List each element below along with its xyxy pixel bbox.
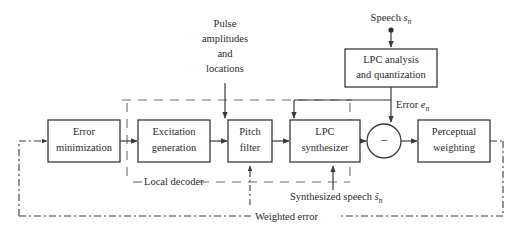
speech-to-lpc-analysis — [388, 27, 393, 47]
block-excitation-generation[interactable]: Excitation generation — [138, 120, 210, 162]
annotation-local-decoder-text: Local decoder — [144, 176, 204, 187]
annotation-synthesized-speech-text-word: Synthesized speech — [290, 191, 375, 202]
annotation-synthesized-speech-text: Synthesized speech ŝn — [290, 191, 383, 205]
annotation-pulse-line3: and — [217, 48, 233, 59]
block-pitch-filter-label-line2: filter — [240, 142, 261, 153]
annotation-speech-input: Speech sn — [371, 12, 412, 26]
annotation-weighted-error-text: Weighted error — [255, 211, 319, 222]
annotation-synthesized-speech: Synthesized speech ŝn — [290, 191, 383, 205]
annotation-pulse-line1: Pulse — [214, 18, 237, 29]
block-excitation-generation-label-line1: Excitation — [152, 126, 196, 137]
block-lpc-synthesizer-label-line1: LPC — [315, 126, 334, 137]
diagram-canvas: Error minimization Excitation generation… — [0, 0, 519, 238]
summing-junction[interactable]: − — [367, 124, 401, 158]
block-lpc-analysis-label-line2: and quantization — [356, 69, 426, 80]
block-perceptual-weighting-label-line2: weighting — [433, 142, 476, 153]
block-diagram-figure: Error minimization Excitation generation… — [0, 0, 519, 238]
annotation-synthesized-speech-text-subscript: n — [379, 196, 383, 205]
annotation-error-signal: Error en — [396, 99, 429, 113]
block-perceptual-weighting-label-line1: Perceptual — [432, 126, 476, 137]
annotation-error-signal-text: Error en — [396, 99, 429, 113]
block-pitch-filter[interactable]: Pitch filter — [228, 120, 272, 162]
block-error-minimization-label-line1: Error — [73, 126, 96, 137]
annotation-speech-input-text: Speech sn — [371, 12, 412, 26]
block-pitch-filter-label-line1: Pitch — [239, 126, 261, 137]
annotation-local-decoder: Local decoder — [144, 176, 204, 187]
annotation-pulse-amplitudes: Pulse amplitudes and locations — [202, 18, 248, 74]
annotation-error-signal-text-subscript: n — [425, 104, 429, 113]
block-lpc-analysis-and-quantization[interactable]: LPC analysis and quantization — [345, 49, 437, 87]
block-lpc-synthesizer-label-line2: synthesizer — [301, 142, 349, 153]
block-perceptual-weighting[interactable]: Perceptual weighting — [418, 120, 490, 162]
block-error-minimization[interactable]: Error minimization — [48, 120, 120, 162]
annotation-pulse-line4: locations — [206, 63, 244, 74]
annotation-speech-input-text-subscript: n — [408, 17, 412, 26]
annotation-weighted-error: Weighted error — [255, 211, 319, 222]
annotation-error-signal-text-word: Error — [396, 99, 421, 110]
block-error-minimization-label-line2: minimization — [56, 142, 113, 153]
summing-junction-minus-sign: − — [380, 133, 387, 148]
lpc-analysis-outputs — [294, 87, 391, 122]
annotation-speech-input-text-word: Speech — [371, 12, 404, 23]
annotation-pulse-line2: amplitudes — [202, 33, 248, 44]
block-excitation-generation-label-line2: generation — [152, 142, 197, 153]
block-lpc-analysis-label-line1: LPC analysis — [363, 54, 419, 65]
block-lpc-synthesizer[interactable]: LPC synthesizer — [290, 120, 360, 162]
